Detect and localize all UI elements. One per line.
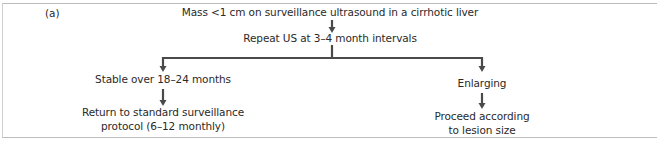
node-repeat-us: Repeat US at 3–4 month intervals [243, 31, 417, 45]
node-stable: Stable over 18–24 months [95, 72, 231, 86]
node-enlarging-outcome-line2: to lesion size [448, 123, 515, 137]
node-enlarging-outcome-line1: Proceed according [434, 109, 529, 123]
branch-connector-icon [160, 45, 486, 72]
arrow-enlarging-to-outcome-icon [479, 93, 486, 109]
node-stable-outcome-line2: protocol (6–12 monthly) [101, 119, 225, 133]
node-enlarging: Enlarging [458, 76, 507, 90]
node-stable-outcome-line1: Return to standard surveillance [82, 105, 244, 119]
arrow-stable-to-outcome-icon [160, 89, 167, 106]
node-start: Mass <1 cm on surveillance ultrasound in… [182, 5, 478, 19]
